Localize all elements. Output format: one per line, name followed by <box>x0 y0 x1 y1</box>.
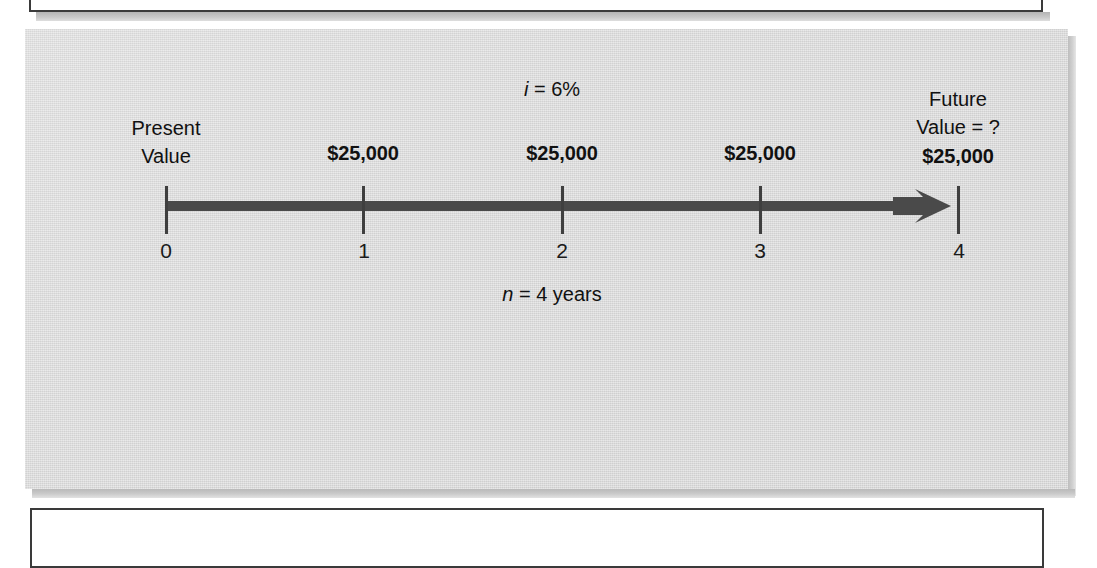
page-box-above <box>29 0 1043 12</box>
time-line-figure-panel: i = 6% Present Value Future Value = ? $2… <box>25 29 1068 489</box>
present-value-line1: Present <box>78 114 254 142</box>
periods-equals: = <box>513 283 536 305</box>
present-value-line2: Value <box>78 142 254 170</box>
page-box-above-shadow <box>36 12 1050 21</box>
axis-tick-0 <box>165 186 168 234</box>
future-value-line1: Future <box>868 85 1048 113</box>
figure-panel-shadow-bottom <box>32 489 1075 498</box>
interest-rate-value: 6% <box>551 78 580 100</box>
periods-variable: n <box>502 283 513 305</box>
axis-tick-number-4: 4 <box>919 240 999 261</box>
axis-tick-number-1: 1 <box>324 240 404 261</box>
time-line-axis-bar <box>166 201 923 211</box>
present-value-label: Present Value <box>78 114 254 171</box>
cash-flow-label-period-2: $25,000 <box>472 143 652 163</box>
axis-tick-4 <box>957 186 960 234</box>
axis-tick-3 <box>759 186 762 234</box>
axis-tick-1 <box>362 186 365 234</box>
axis-tick-number-3: 3 <box>720 240 800 261</box>
future-value-label: Future Value = ? $25,000 <box>868 85 1048 170</box>
time-line-diagram: i = 6% Present Value Future Value = ? $2… <box>25 29 1068 489</box>
axis-tick-number-0: 0 <box>126 240 206 261</box>
future-value-amount: $25,000 <box>868 142 1048 170</box>
page-box-below <box>30 508 1044 568</box>
periods-label: n = 4 years <box>437 284 667 304</box>
periods-value: 4 years <box>536 283 602 305</box>
axis-tick-2 <box>561 186 564 234</box>
time-line-arrow-icon <box>893 189 953 223</box>
future-value-line2: Value = ? <box>868 113 1048 141</box>
figure-panel-shadow-right <box>1068 36 1076 496</box>
interest-rate-equals: = <box>528 78 551 100</box>
axis-tick-number-2: 2 <box>522 240 602 261</box>
cash-flow-label-period-1: $25,000 <box>273 143 453 163</box>
interest-rate-label: i = 6% <box>452 79 652 99</box>
cash-flow-label-period-3: $25,000 <box>670 143 850 163</box>
